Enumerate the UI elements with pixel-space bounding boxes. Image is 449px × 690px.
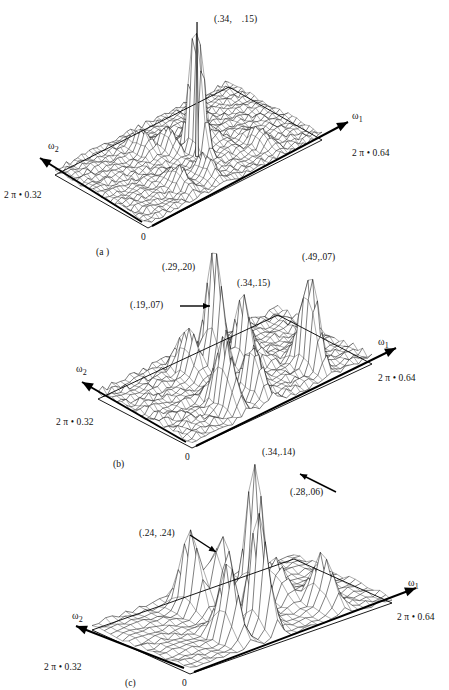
peak-label-b-0: (.29,.20)	[162, 262, 195, 272]
peak-label-b-3: (.19,.07)	[130, 300, 163, 310]
panel-caption-c: (c)	[125, 678, 136, 688]
peak-label-c-0: (.34,.14)	[262, 447, 295, 457]
peak-label-b-2: (.49,.07)	[302, 252, 335, 262]
axis-max-omega1-a: 2 π • 0.64	[352, 148, 390, 158]
panel-b: (.29,.20) (.34,.15) (.49,.07) (.19,.07) …	[0, 236, 449, 466]
axis-label-omega1-a: ω1	[352, 110, 363, 124]
panel-a: (.34, .15) ω2 ω1 2 π • 0.32 2 π • 0.64 0…	[0, 0, 449, 250]
surface-plot-c	[0, 440, 449, 690]
axis-label-omega2-a: ω2	[48, 140, 59, 154]
peak-label-c-2: (.24, .24)	[139, 528, 175, 538]
figure-container: (.34, .15) ω2 ω1 2 π • 0.32 2 π • 0.64 0…	[0, 0, 449, 690]
axis-max-omega2-b: 2 π • 0.32	[56, 417, 94, 427]
peak-label-b-1: (.34,.15)	[237, 278, 270, 288]
axis-max-omega2-a: 2 π • 0.32	[4, 190, 42, 200]
axis-origin-c: 0	[182, 678, 187, 688]
axis-label-omega2-c: ω2	[72, 610, 83, 624]
axis-label-omega2-b: ω2	[76, 363, 87, 377]
axis-max-omega2-c: 2 π • 0.32	[44, 662, 82, 672]
panel-c: (.34,.14) (.28,.06) (.24, .24) ω2 ω1 2 π…	[0, 440, 449, 690]
peak-label-a-0: (.34, .15)	[214, 14, 257, 24]
axis-label-omega1-c: ω1	[408, 577, 419, 591]
axis-max-omega1-b: 2 π • 0.64	[378, 373, 416, 383]
axis-max-omega1-c: 2 π • 0.64	[397, 612, 435, 622]
surface-plot-a	[0, 0, 449, 250]
surface-plot-b	[0, 236, 449, 466]
axis-label-omega1-b: ω1	[378, 336, 389, 350]
peak-label-c-1: (.28,.06)	[290, 487, 323, 497]
